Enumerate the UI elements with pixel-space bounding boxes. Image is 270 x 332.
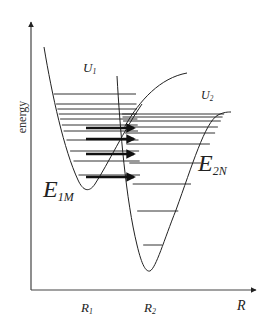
u2-label: U2 [201,88,213,103]
e2n-label: E2N [198,150,227,179]
x-axis-label: R [237,298,246,314]
y-axis-label: energy [15,97,29,137]
x-tick-r1: R1 [81,300,93,316]
u1-label: U1 [83,60,96,76]
e1m-label: E1M [43,176,74,205]
potential-curve-u1-upper [125,73,187,126]
energy-diagram [0,0,270,332]
transfer-arrows [86,128,134,177]
x-tick-r2: R2 [144,300,156,316]
left-well-levels [54,94,140,175]
right-well-levels [122,114,224,245]
